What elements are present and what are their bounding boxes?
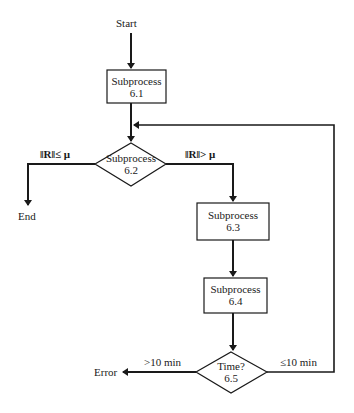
edge-label-r-le-mu: ‖R‖≤ μ — [40, 148, 70, 160]
node-6-1: Subprocess 6.1 — [107, 75, 166, 99]
end-label: End — [18, 210, 36, 222]
start-label: Start — [116, 17, 137, 29]
node-6-1-title: Subprocess — [107, 75, 166, 87]
node-6-5: Time? 6.5 — [206, 360, 256, 384]
node-6-4-title: Subprocess — [204, 283, 267, 295]
edge-label-r-gt-mu: ‖R‖> μ — [185, 148, 215, 160]
node-6-4: Subprocess 6.4 — [204, 283, 267, 307]
node-6-2: Subprocess 6.2 — [101, 152, 161, 176]
error-label: Error — [94, 366, 117, 378]
node-6-5-number: 6.5 — [206, 372, 256, 384]
edge-6-2-to-6-3 — [166, 164, 233, 201]
node-6-4-number: 6.4 — [204, 295, 267, 307]
node-6-3-title: Subprocess — [197, 209, 269, 221]
node-6-5-title: Time? — [206, 360, 256, 372]
edge-label-le-10-min: ≤10 min — [280, 356, 317, 368]
node-6-2-number: 6.2 — [101, 164, 161, 176]
node-6-3-number: 6.3 — [197, 221, 269, 233]
node-6-2-title: Subprocess — [101, 152, 161, 164]
edge-label-gt-10-min: >10 min — [144, 356, 181, 368]
edge-6-2-to-end — [28, 164, 95, 205]
node-6-3: Subprocess 6.3 — [197, 209, 269, 233]
node-6-1-number: 6.1 — [107, 87, 166, 99]
flowchart-canvas — [0, 0, 354, 413]
